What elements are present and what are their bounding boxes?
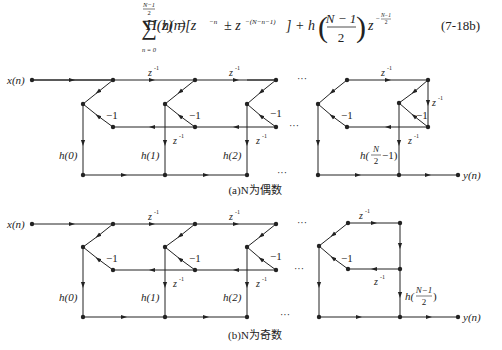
node — [274, 78, 278, 82]
coef-h2: h(2) — [223, 291, 242, 304]
gain-label: −1 — [341, 109, 353, 121]
node — [346, 267, 350, 271]
coef-last-suffix: −1) — [382, 149, 398, 162]
delay-label: z — [172, 135, 177, 146]
coef-middle-prefix: h( — [405, 290, 416, 303]
col1-diag-down — [83, 224, 113, 247]
col3-diag-down — [247, 224, 276, 247]
sigma-symbol: ∑ — [141, 15, 157, 40]
delay-label: z — [255, 135, 260, 146]
delay-exp: -1 — [262, 133, 267, 139]
gain-label: −1 — [270, 250, 282, 262]
col4-diag-down — [319, 223, 348, 246]
node — [426, 125, 430, 129]
coef-h1: h(1) — [141, 149, 160, 162]
node — [163, 173, 167, 177]
frac-den: 2 — [338, 30, 345, 45]
node — [30, 78, 34, 82]
node — [397, 101, 401, 105]
node — [345, 125, 349, 129]
node — [274, 125, 278, 129]
coef-middle-num: N−1 — [415, 285, 433, 295]
col2-diag-down — [165, 224, 195, 247]
equation-7-18b: H(z) = N−1 2 ∑ n = 0 h(n)[z −n ± z −(N−n… — [141, 1, 480, 53]
input-label: x(n) — [6, 218, 25, 231]
delay-exp: -1 — [179, 276, 184, 282]
pm-term: ± z — [224, 18, 241, 33]
gain-label: −1 — [270, 107, 282, 119]
node — [456, 173, 460, 177]
fir-linear-phase-structure-figure: H(z) = N−1 2 ∑ n = 0 h(n)[z −n ± z −(N−n… — [0, 0, 502, 350]
frac-num: N − 1 — [325, 11, 356, 26]
node — [163, 102, 167, 106]
delay-label: z — [172, 278, 177, 289]
delay-exp: -1 — [438, 95, 443, 101]
delay-label: z — [147, 211, 152, 222]
coef-last-prefix: h( — [360, 149, 371, 162]
caption-b: (b)N为奇数 — [228, 329, 282, 342]
node — [245, 173, 249, 177]
node — [398, 267, 402, 271]
output-label: y(n) — [462, 311, 481, 324]
gain-label: −1 — [189, 252, 201, 264]
delay-label: z — [358, 210, 363, 221]
ellipsis: ··· — [294, 263, 304, 274]
output-label: y(n) — [462, 169, 481, 182]
node — [193, 78, 197, 82]
delay-exp: -1 — [380, 274, 385, 280]
node — [111, 222, 115, 226]
node — [317, 315, 321, 319]
coef-last-den: 2 — [374, 156, 379, 166]
col5-diag-down — [399, 80, 428, 103]
coef-last-num: N — [372, 144, 380, 154]
delay-exp: -1 — [365, 208, 370, 214]
node — [397, 173, 401, 177]
equation-number: (7-18b) — [441, 18, 480, 33]
exp3-num: N−1 — [380, 12, 391, 18]
exp3-sign: − — [376, 15, 380, 23]
ellipsis: ··· — [297, 217, 307, 228]
node — [317, 244, 321, 248]
node — [193, 222, 197, 226]
gain-label: −1 — [106, 252, 118, 264]
node — [245, 245, 249, 249]
node — [456, 315, 460, 319]
gain-label: −1 — [106, 109, 118, 121]
delay-label: z — [228, 67, 233, 78]
node — [81, 102, 85, 106]
node — [316, 173, 320, 177]
delay-label: z — [147, 67, 152, 78]
node — [346, 221, 350, 225]
node — [111, 125, 115, 129]
ellipsis: ··· — [297, 73, 307, 84]
gain-label: −1 — [416, 109, 428, 121]
delay-label: z — [431, 97, 436, 108]
term1: h(n)[z — [162, 18, 197, 34]
node — [245, 315, 249, 319]
node — [193, 268, 197, 272]
ellipsis: ··· — [277, 167, 287, 178]
col3-diag-down — [247, 80, 276, 104]
caption-a: (a)N为偶数 — [228, 184, 281, 197]
node — [398, 315, 402, 319]
delay-label: z — [373, 276, 378, 287]
exp3-den: 2 — [385, 19, 388, 25]
delay-exp: -1 — [179, 133, 184, 139]
delay-exp: -1 — [235, 209, 240, 215]
coef-middle-den: 2 — [422, 297, 427, 307]
diagram-a-labels: x(n) y(n) z -1 z -1 z -1 z -1 z -1 z -1 … — [6, 65, 481, 197]
node — [81, 315, 85, 319]
ellipsis: ··· — [280, 309, 290, 320]
gain-label: −1 — [189, 109, 201, 121]
coef-h1: h(1) — [141, 291, 160, 304]
delay-label: z — [407, 135, 412, 146]
exp2: −(N−n−1) — [245, 18, 276, 26]
node — [81, 173, 85, 177]
delay-label: z — [228, 211, 233, 222]
node — [163, 315, 167, 319]
ellipsis: ··· — [289, 120, 299, 131]
coef-h0: h(0) — [59, 149, 78, 162]
node — [398, 221, 402, 225]
node — [111, 268, 115, 272]
node — [245, 102, 249, 106]
